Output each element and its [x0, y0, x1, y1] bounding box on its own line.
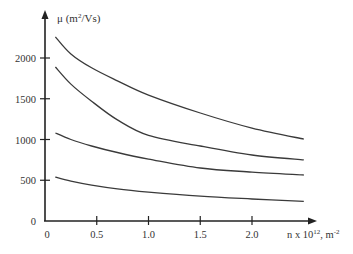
y-tick-label: 1000 [15, 135, 36, 146]
mobility-chart: 0500100015002000 00.51.01.52.0 μ (m2/Vs)… [0, 0, 353, 254]
x-tick-label: 0 [44, 229, 49, 240]
x-tick-label: 0.5 [90, 229, 103, 240]
y-axis-arrow-icon [42, 10, 49, 19]
y-tick-label: 500 [20, 175, 36, 186]
x-tick-label: 1.5 [194, 229, 207, 240]
y-tick-label: 0 [31, 216, 36, 227]
x-tick-label: 1.0 [142, 229, 155, 240]
curve-4 [55, 177, 303, 201]
y-axis-label: μ (m2/Vs) [57, 12, 101, 25]
x-ticks: 00.51.01.52.0 [44, 216, 258, 240]
curve-3 [55, 133, 303, 175]
x-tick-label: 2.0 [245, 229, 258, 240]
x-axis-arrow-icon [308, 218, 317, 225]
curve-1 [55, 37, 303, 139]
y-tick-label: 2000 [15, 53, 36, 64]
x-axis-label: n x 1012, m-2 [287, 228, 340, 240]
y-tick-label: 1500 [15, 94, 36, 105]
plot-curves [55, 37, 303, 202]
